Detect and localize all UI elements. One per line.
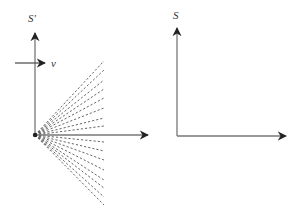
origin-point <box>33 133 37 137</box>
reference-frames-diagram: S' v S <box>0 0 299 216</box>
light-ray <box>35 61 104 135</box>
light-ray <box>35 135 104 142</box>
light-ray <box>35 89 104 135</box>
light-ray <box>35 135 104 197</box>
s-prime-axis-label: S' <box>28 12 37 24</box>
light-ray <box>35 70 104 135</box>
s-axis-label: S <box>173 9 179 21</box>
rest-frame-s: S <box>173 9 286 136</box>
light-ray <box>35 126 104 135</box>
velocity-label: v <box>51 57 56 69</box>
light-ray <box>35 135 104 180</box>
light-ray <box>35 98 104 135</box>
moving-frame-s-prime: S' v <box>15 12 148 205</box>
light-ray <box>35 135 104 170</box>
light-ray <box>35 135 104 205</box>
light-rays-dashed <box>35 61 104 205</box>
